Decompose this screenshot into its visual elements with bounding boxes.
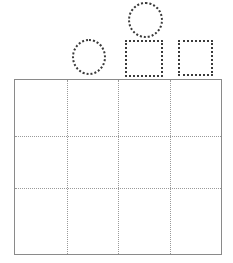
tracing-grid[interactable] (14, 79, 222, 255)
trace-shape-circle-left[interactable] (72, 39, 106, 75)
grid-cell-r0-c2[interactable] (118, 80, 170, 136)
trace-shape-circle-top[interactable] (128, 2, 163, 38)
grid-cell-r1-c2[interactable] (118, 136, 170, 188)
grid-cell-r2-c3[interactable] (170, 188, 223, 256)
grid-cell-r2-c2[interactable] (118, 188, 170, 256)
grid-cell-r2-c1[interactable] (67, 188, 118, 256)
grid-cell-r0-c1[interactable] (67, 80, 118, 136)
grid-cell-r1-c3[interactable] (170, 136, 223, 188)
trace-shape-square-middle[interactable] (125, 40, 163, 77)
trace-shape-square-right[interactable] (178, 40, 213, 76)
grid-cell-r2-c0[interactable] (15, 188, 67, 256)
grid-cell-r0-c3[interactable] (170, 80, 223, 136)
grid-cell-r1-c1[interactable] (67, 136, 118, 188)
grid-cell-r1-c0[interactable] (15, 136, 67, 188)
grid-cell-r0-c0[interactable] (15, 80, 67, 136)
worksheet-canvas (0, 0, 233, 263)
